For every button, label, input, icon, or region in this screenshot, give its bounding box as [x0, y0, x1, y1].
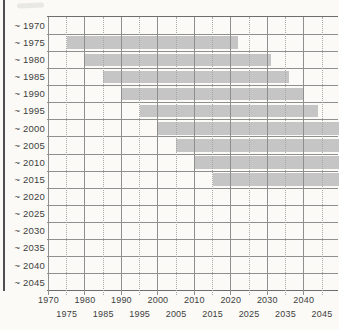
x-axis-label-major: 2010: [179, 295, 209, 305]
lifespan-bar: [85, 54, 271, 67]
y-axis-label: ~ 2040: [2, 260, 45, 271]
grid-vline-dotted: [285, 17, 286, 295]
grid-row-line: [47, 85, 339, 86]
grid-vline-dotted: [322, 17, 323, 295]
y-axis-label: ~ 2020: [2, 191, 45, 202]
grid-row-line: [47, 136, 339, 137]
x-axis-label-minor: 2035: [271, 309, 301, 319]
lifespan-bar: [103, 71, 289, 84]
y-axis-label: ~ 2030: [2, 225, 45, 236]
grid-vline-dotted: [249, 17, 250, 295]
x-axis-label-minor: 2005: [161, 309, 191, 319]
grid-vline-solid: [230, 17, 231, 295]
y-axis-label: ~ 2045: [2, 277, 45, 288]
lifespan-bar: [213, 173, 339, 186]
x-axis-label-major: 2030: [252, 295, 282, 305]
x-axis-label-minor: 1995: [125, 309, 155, 319]
x-axis-label-minor: 2045: [307, 309, 337, 319]
grid-vline-dotted: [66, 17, 67, 295]
x-axis-label-minor: 2025: [234, 309, 264, 319]
plot-top-border: [47, 16, 339, 17]
grid-vline-solid: [84, 17, 85, 295]
y-axis-label: ~ 1985: [2, 71, 45, 82]
x-axis-label-major: 2000: [143, 295, 173, 305]
grid-row-line: [47, 256, 339, 257]
grid-vline-solid: [267, 17, 268, 295]
grid-vline-solid: [157, 17, 158, 295]
x-axis-label-minor: 2015: [198, 309, 228, 319]
y-axis-label: ~ 1990: [2, 88, 45, 99]
y-axis-label: ~ 1970: [2, 20, 45, 31]
lifespan-gantt-figure: ~ 1970~ 1975~ 1980~ 1985~ 1990~ 1995~ 20…: [0, 0, 339, 330]
y-axis-label: ~ 2005: [2, 140, 45, 151]
lifespan-bar: [140, 105, 319, 118]
grid-row-line: [47, 34, 339, 35]
grid-row-line: [47, 68, 339, 69]
grid-vline-dotted: [103, 17, 104, 295]
grid-vline-dotted: [139, 17, 140, 295]
grid-row-line: [47, 188, 339, 189]
x-axis-label-minor: 1985: [88, 309, 118, 319]
grid-row-line: [47, 239, 339, 240]
x-axis-label-major: 2020: [216, 295, 246, 305]
grid-row-line: [47, 222, 339, 223]
grid-row-line: [47, 51, 339, 52]
grid-row-line: [47, 171, 339, 172]
grid-row-line: [47, 154, 339, 155]
y-axis-label: ~ 2000: [2, 123, 45, 134]
x-axis-label-major: 1970: [34, 295, 64, 305]
grid-vline-dotted: [212, 17, 213, 295]
grid-vline-dotted: [176, 17, 177, 295]
y-axis-label: ~ 2015: [2, 174, 45, 185]
grid-vline-solid: [121, 17, 122, 295]
x-axis-label-major: 1980: [70, 295, 100, 305]
y-axis-label: ~ 2035: [2, 242, 45, 253]
y-axis-label: ~ 2025: [2, 208, 45, 219]
grid-row-line: [47, 205, 339, 206]
y-axis-label: ~ 2010: [2, 157, 45, 168]
grid-row-line: [47, 102, 339, 103]
x-axis-line: [47, 290, 339, 291]
grid-vline-solid: [194, 17, 195, 295]
grid-vline-solid: [48, 17, 49, 295]
x-axis-label-major: 2040: [289, 295, 319, 305]
y-axis-label: ~ 1980: [2, 54, 45, 65]
y-axis-label: ~ 1975: [2, 37, 45, 48]
lifespan-bar: [176, 139, 339, 152]
grid-vline-solid: [303, 17, 304, 295]
y-axis-label: ~ 1995: [2, 105, 45, 116]
x-axis-label-minor: 1975: [52, 309, 82, 319]
grid-row-line: [47, 273, 339, 274]
x-axis-label-major: 1990: [106, 295, 136, 305]
grid-row-line: [47, 119, 339, 120]
scan-smudge-artifact: [17, 3, 44, 9]
